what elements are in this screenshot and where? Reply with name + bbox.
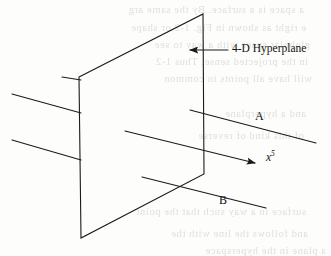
hyperplane-label: 4-D Hyperplane — [232, 43, 306, 55]
worldline-a — [12, 94, 316, 143]
hyperplane-parallelogram — [79, 14, 204, 238]
x5-axis-arrow — [125, 131, 255, 163]
x5-axis-label: x5 — [266, 152, 275, 164]
x5-axis-label-superscript: 5 — [271, 149, 275, 158]
line-b-label: B — [219, 194, 227, 206]
hyperplane-shape — [79, 14, 204, 238]
top-left-line-stub — [62, 77, 81, 80]
line-b-right-segment — [142, 177, 266, 208]
line-a-left-segment — [12, 94, 81, 113]
hyperplane-figure — [0, 0, 331, 256]
diagram-canvas: a space is a surface. By the same arge r… — [0, 0, 331, 256]
line-b-left-segment — [12, 140, 81, 160]
worldline-b — [12, 140, 266, 208]
line-a-right-segment — [190, 110, 316, 143]
line-a-label: A — [255, 110, 264, 122]
